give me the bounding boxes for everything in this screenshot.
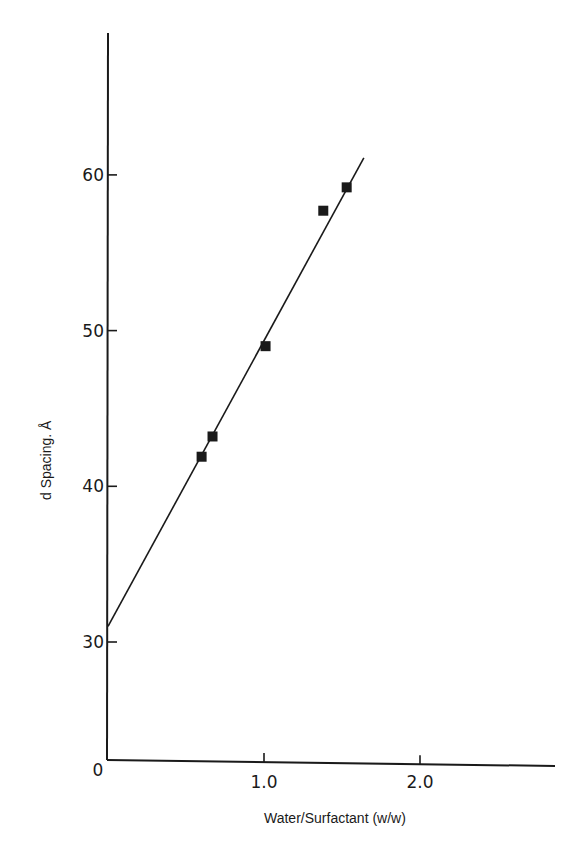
x-tick-label: 2.0 bbox=[406, 772, 433, 792]
x-tick-label: 1.0 bbox=[250, 772, 277, 792]
data-point-marker bbox=[197, 452, 207, 462]
fit-line-segment bbox=[108, 158, 364, 627]
data-point-marker bbox=[261, 341, 271, 351]
y-axis-title: d Spacing. Å bbox=[38, 420, 54, 500]
y-axis bbox=[107, 33, 108, 760]
chart: 304050601.02.00Water/Surfactant (w/w)d S… bbox=[0, 0, 582, 856]
x-axis bbox=[107, 760, 555, 766]
y-tick-label: 40 bbox=[82, 476, 104, 496]
axes bbox=[107, 33, 555, 766]
x-axis-title: Water/Surfactant (w/w) bbox=[264, 810, 406, 826]
fit-line bbox=[108, 158, 364, 627]
y-tick-label: 50 bbox=[82, 321, 104, 341]
axis-labels: 304050601.02.00Water/Surfactant (w/w)d S… bbox=[38, 165, 434, 826]
data-point-marker bbox=[318, 206, 328, 216]
data-point-marker bbox=[342, 182, 352, 192]
y-tick-label: 60 bbox=[82, 165, 104, 185]
data-point-marker bbox=[208, 431, 218, 441]
y-tick-label: 30 bbox=[82, 632, 104, 652]
origin-label: 0 bbox=[93, 760, 104, 780]
